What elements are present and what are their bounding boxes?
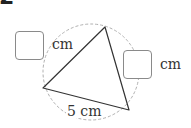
answer-box-right-side[interactable] (123, 50, 152, 79)
unit-label-left-side: cm (52, 37, 73, 51)
answer-box-left-side[interactable] (15, 31, 44, 60)
bottom-side-length-label: 5 cm (66, 104, 102, 118)
unit-label-right-side: cm (160, 57, 181, 71)
